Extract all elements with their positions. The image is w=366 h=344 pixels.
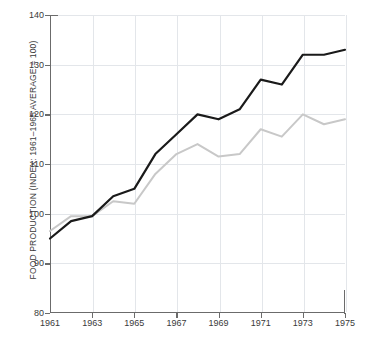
y-axis-tick-label: 90 <box>4 258 44 268</box>
gridline-horizontal <box>51 164 345 165</box>
x-axis-tick-mark <box>176 313 177 318</box>
x-axis-tick-label: 1971 <box>237 318 285 328</box>
y-axis-tick-mark <box>45 15 50 16</box>
x-axis-tick-mark <box>92 313 93 318</box>
y-axis-tick-mark <box>45 164 50 165</box>
x-axis-tick-mark <box>134 313 135 318</box>
gridline-vertical <box>346 15 347 312</box>
x-axis-tick-mark <box>219 313 220 318</box>
y-axis-tick-mark <box>45 313 50 314</box>
y-axis-tick-mark <box>45 214 50 215</box>
x-axis-tick-label: 1967 <box>152 318 200 328</box>
x-axis-tick-mark <box>261 313 262 318</box>
y-axis-tick-label: 80 <box>4 308 44 318</box>
gridline-horizontal <box>51 214 345 215</box>
x-axis-tick-label: 1965 <box>110 318 158 328</box>
x-axis-tick-label: 1975 <box>321 318 366 328</box>
y-axis-tick-mark <box>45 114 50 115</box>
gridline-vertical <box>135 15 136 312</box>
x-axis-tick-label: 1961 <box>26 318 74 328</box>
gridline-horizontal <box>51 65 345 66</box>
y-axis-tick-label: 140 <box>4 10 44 20</box>
gridline-horizontal <box>51 15 345 16</box>
y-axis-tick-label: 110 <box>4 159 44 169</box>
y-axis-tick-mark <box>45 65 50 66</box>
gridline-vertical <box>262 15 263 312</box>
x-axis-tick-label: 1973 <box>279 318 327 328</box>
y-axis-tick-label: 120 <box>4 109 44 119</box>
x-axis-tick-label: 1963 <box>68 318 116 328</box>
y-axis-tick-label: 100 <box>4 209 44 219</box>
y-axis-tick-label: 130 <box>4 60 44 70</box>
food-production-line-chart: FOOD PRODUCTION (INDEX: 1961–1965 AVERAG… <box>0 0 366 344</box>
x-axis-tick-label: 1969 <box>195 318 243 328</box>
plot-area <box>50 15 345 313</box>
x-axis-right-cap <box>344 290 345 314</box>
x-axis-tick-mark <box>303 313 304 318</box>
y-axis-tick-mark <box>45 263 50 264</box>
gridline-horizontal <box>51 263 345 264</box>
gridline-vertical <box>177 15 178 312</box>
gridline-horizontal <box>51 114 345 115</box>
gridline-vertical <box>93 15 94 312</box>
gridline-vertical <box>304 15 305 312</box>
y-axis-top-cap <box>50 15 58 16</box>
gridline-vertical <box>220 15 221 312</box>
x-axis-tick-mark <box>345 313 346 318</box>
